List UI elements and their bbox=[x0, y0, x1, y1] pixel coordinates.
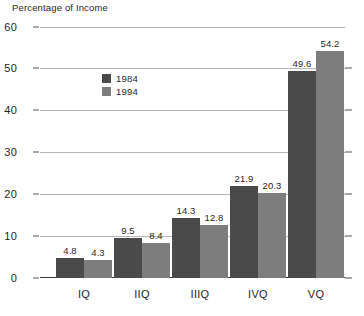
legend-swatch-1984-icon bbox=[102, 74, 111, 83]
y-tick-label-40: 40 bbox=[0, 104, 17, 116]
y-tick-mark-50 bbox=[33, 68, 39, 69]
bar-value-IVQ-1994: 20.3 bbox=[263, 180, 282, 191]
bar-IQ-1984[interactable]: 4.8 bbox=[56, 258, 84, 278]
bar-value-VQ-1994: 54.2 bbox=[321, 38, 340, 49]
legend: 1984 1994 bbox=[102, 72, 138, 98]
bar-VQ-1994[interactable]: 54.2 bbox=[316, 51, 344, 278]
bar-group-IQ: 4.8 4.3 bbox=[56, 27, 112, 278]
y-tick-mark-right-50 bbox=[345, 68, 352, 69]
y-tick-mark-20 bbox=[33, 194, 39, 195]
x-cat-label-VQ: VQ bbox=[308, 288, 325, 300]
y-tick-mark-60 bbox=[33, 27, 39, 28]
bar-IIIQ-1994[interactable]: 12.8 bbox=[200, 225, 228, 279]
y-tick-mark-right-10 bbox=[345, 236, 352, 237]
bar-value-IIQ-1994: 8.4 bbox=[149, 230, 163, 241]
bar-value-IVQ-1984: 21.9 bbox=[235, 173, 254, 184]
y-tick-label-10: 10 bbox=[0, 230, 17, 242]
bar-IIIQ-1984[interactable]: 14.3 bbox=[172, 218, 200, 278]
bar-IIQ-1994[interactable]: 8.4 bbox=[142, 243, 170, 278]
bar-group-VQ: 49.6 54.2 bbox=[288, 27, 344, 278]
x-cat-label-IIQ: IIQ bbox=[134, 288, 150, 300]
y-tick-mark-40 bbox=[33, 110, 39, 111]
legend-swatch-1994-icon bbox=[102, 87, 111, 96]
legend-label-1984: 1984 bbox=[116, 73, 138, 84]
x-cat-label-IIIQ: IIIQ bbox=[191, 288, 210, 300]
bar-IVQ-1994[interactable]: 20.3 bbox=[258, 193, 286, 278]
y-tick-mark-0 bbox=[33, 278, 39, 279]
y-tick-mark-right-0 bbox=[345, 278, 352, 279]
bar-value-IQ-1984: 4.8 bbox=[63, 245, 77, 256]
bar-VQ-1984[interactable]: 49.6 bbox=[288, 71, 316, 278]
y-tick-label-20: 20 bbox=[0, 188, 17, 200]
bar-group-IVQ: 21.9 20.3 bbox=[230, 27, 286, 278]
bar-value-IQ-1994: 4.3 bbox=[91, 247, 105, 258]
bar-value-IIQ-1984: 9.5 bbox=[121, 225, 135, 236]
x-cat-label-IVQ: IVQ bbox=[248, 288, 268, 300]
y-tick-label-50: 50 bbox=[0, 62, 17, 74]
bar-group-IIIQ: 14.3 12.8 bbox=[172, 27, 228, 278]
y-tick-label-0: 0 bbox=[0, 272, 17, 284]
bar-value-IIIQ-1984: 14.3 bbox=[177, 205, 196, 216]
plot-area: 4.8 4.3 9.5 8.4 14.3 12.8 bbox=[40, 27, 345, 278]
y-tick-mark-30 bbox=[33, 152, 39, 153]
y-tick-label-60: 60 bbox=[0, 21, 17, 33]
bar-value-VQ-1984: 49.6 bbox=[293, 58, 312, 69]
bar-group-IIQ: 9.5 8.4 bbox=[114, 27, 170, 278]
legend-label-1994: 1994 bbox=[116, 86, 138, 97]
x-cat-label-IQ: IQ bbox=[78, 288, 90, 300]
y-tick-label-30: 30 bbox=[0, 146, 17, 158]
legend-item-1984[interactable]: 1984 bbox=[102, 72, 138, 85]
y-tick-mark-right-20 bbox=[345, 194, 352, 195]
y-tick-mark-right-30 bbox=[345, 152, 352, 153]
y-tick-mark-right-40 bbox=[345, 110, 352, 111]
bar-IVQ-1984[interactable]: 21.9 bbox=[230, 186, 258, 278]
y-tick-mark-10 bbox=[33, 236, 39, 237]
legend-item-1994[interactable]: 1994 bbox=[102, 85, 138, 98]
chart-title: Percentage of Income bbox=[12, 2, 108, 13]
bar-chart: Percentage of Income 60 50 40 30 20 10 0 bbox=[0, 0, 364, 316]
bar-value-IIIQ-1994: 12.8 bbox=[205, 212, 224, 223]
bar-IIQ-1984[interactable]: 9.5 bbox=[114, 238, 142, 278]
bar-IQ-1994[interactable]: 4.3 bbox=[84, 260, 112, 278]
